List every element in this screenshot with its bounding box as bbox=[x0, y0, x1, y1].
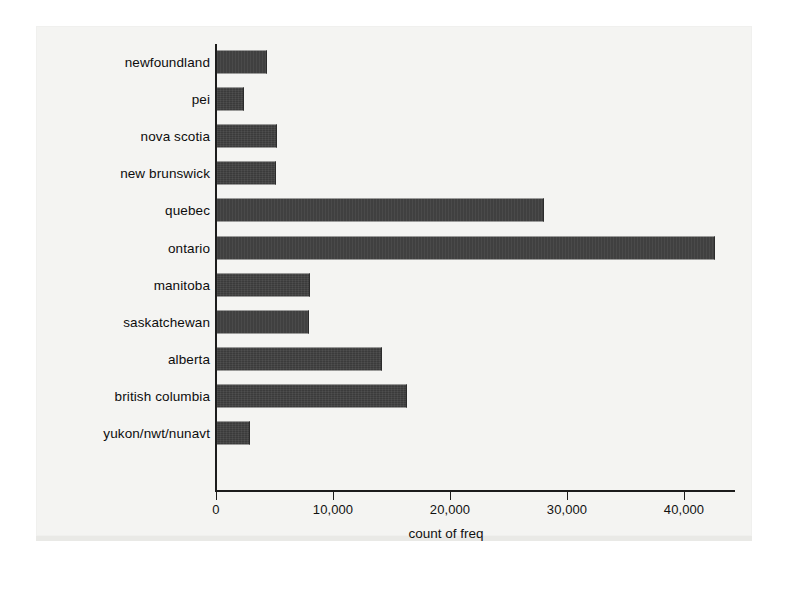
x-axis-tick bbox=[567, 492, 568, 500]
bar-row: newfoundland bbox=[0, 44, 788, 80]
category-label: newfoundland bbox=[125, 55, 216, 70]
bar-row: yukon/nwt/nunavt bbox=[0, 415, 788, 451]
category-label: new brunswick bbox=[120, 166, 216, 181]
bar-row: new brunswick bbox=[0, 155, 788, 191]
x-axis-tick bbox=[684, 492, 685, 500]
category-label: alberta bbox=[168, 351, 216, 366]
x-axis-tick bbox=[216, 492, 217, 500]
bar-row: ontario bbox=[0, 230, 788, 266]
bar-row: manitoba bbox=[0, 267, 788, 303]
bar[interactable] bbox=[217, 236, 715, 259]
x-axis-line bbox=[215, 490, 735, 492]
x-axis-tick bbox=[450, 492, 451, 500]
figure-canvas: newfoundlandpeinova scotianew brunswickq… bbox=[0, 0, 788, 589]
category-label: nova scotia bbox=[141, 129, 216, 144]
bar[interactable] bbox=[217, 347, 382, 370]
x-axis-tick bbox=[333, 492, 334, 500]
bar[interactable] bbox=[217, 422, 250, 445]
x-axis-tick-label: 30,000 bbox=[547, 502, 587, 517]
bar-chart-plot-area: newfoundlandpeinova scotianew brunswickq… bbox=[0, 0, 788, 589]
bar[interactable] bbox=[217, 88, 244, 111]
category-label: ontario bbox=[168, 240, 216, 255]
x-axis-title-label: count of freq bbox=[408, 526, 483, 541]
bar-row: british columbia bbox=[0, 378, 788, 414]
category-label: quebec bbox=[165, 203, 216, 218]
x-axis-tick-label: 20,000 bbox=[430, 502, 470, 517]
bar-row: quebec bbox=[0, 192, 788, 228]
category-label: saskatchewan bbox=[123, 314, 216, 329]
bar[interactable] bbox=[217, 310, 309, 333]
x-axis-tick-label: 10,000 bbox=[313, 502, 353, 517]
bar-row: alberta bbox=[0, 341, 788, 377]
bar[interactable] bbox=[217, 162, 276, 185]
x-axis-tick-label: 0 bbox=[212, 502, 219, 517]
bar-row: nova scotia bbox=[0, 118, 788, 154]
bar[interactable] bbox=[217, 51, 267, 74]
category-label: yukon/nwt/nunavt bbox=[103, 426, 216, 441]
x-axis-tick-label: 40,000 bbox=[664, 502, 704, 517]
x-axis-title: count of freq bbox=[0, 526, 788, 541]
bar-row: saskatchewan bbox=[0, 304, 788, 340]
category-label: pei bbox=[192, 92, 216, 107]
bar-row: pei bbox=[0, 81, 788, 117]
bar[interactable] bbox=[217, 199, 544, 222]
category-label: manitoba bbox=[154, 277, 216, 292]
category-label: british columbia bbox=[115, 388, 216, 403]
bar[interactable] bbox=[217, 125, 277, 148]
bar[interactable] bbox=[217, 273, 310, 296]
bar[interactable] bbox=[217, 384, 407, 407]
